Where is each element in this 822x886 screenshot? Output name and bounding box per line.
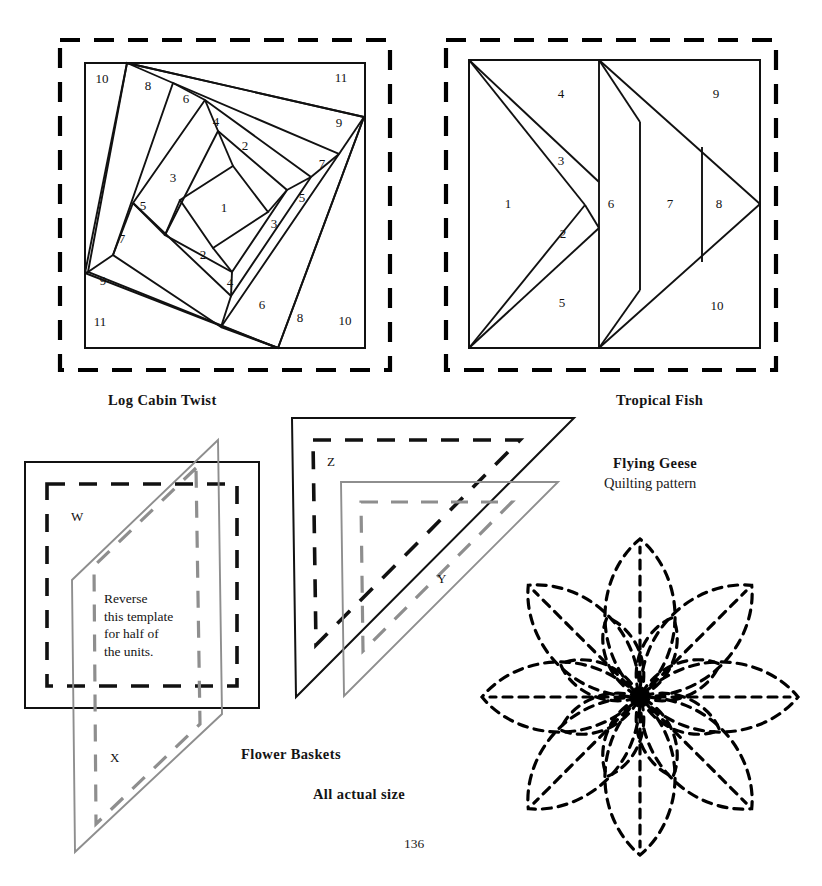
piece-number-19: 10 bbox=[339, 313, 352, 328]
template-y-outline bbox=[341, 482, 558, 696]
piece-number-3: 4 bbox=[213, 114, 220, 129]
flying-geese-quilting-motif bbox=[482, 539, 798, 855]
piece-number-0: 1 bbox=[221, 200, 228, 215]
template-label-w: W bbox=[71, 509, 84, 524]
piece-number-9: 10 bbox=[96, 71, 109, 86]
caption-tropical-fish: Tropical Fish bbox=[616, 392, 703, 409]
piece-number-14: 5 bbox=[299, 190, 306, 205]
page-number: 136 bbox=[404, 836, 424, 852]
template-label-y: Y bbox=[437, 571, 447, 586]
piece-number-4: 5 bbox=[140, 198, 147, 213]
piece-number-12: 3 bbox=[271, 216, 278, 231]
template-z-seamline bbox=[313, 440, 520, 645]
quilting-pattern-page: 1234567891011234567891011 bbox=[0, 0, 822, 886]
subcaption-flying-geese: Quilting pattern bbox=[604, 475, 696, 492]
piece-number-1: 2 bbox=[242, 138, 249, 153]
piece-number-5: 6 bbox=[608, 196, 615, 211]
tropical-fish-piece-numbers: 12345678910 bbox=[505, 86, 724, 313]
piece-number-3: 4 bbox=[558, 86, 565, 101]
piece-number-6: 7 bbox=[119, 231, 126, 246]
caption-all-actual-size: All actual size bbox=[313, 786, 405, 803]
caption-log-cabin-twist: Log Cabin Twist bbox=[108, 392, 217, 409]
flower-vein-7 bbox=[534, 591, 640, 697]
piece-number-0: 1 bbox=[505, 196, 512, 211]
log-cabin-twist-block: 1234567891011234567891011 bbox=[60, 40, 390, 370]
caption-flying-geese: Flying Geese bbox=[613, 455, 697, 472]
caption-flower-baskets: Flower Baskets bbox=[241, 746, 341, 763]
piece-number-7: 8 bbox=[145, 78, 152, 93]
piece-number-7: 8 bbox=[716, 196, 723, 211]
piece-number-13: 4 bbox=[227, 275, 234, 290]
piece-number-20: 11 bbox=[335, 70, 348, 85]
piece-number-10: 11 bbox=[94, 314, 107, 329]
piece-number-8: 9 bbox=[713, 86, 720, 101]
piece-number-8: 9 bbox=[100, 273, 107, 288]
piece-number-9: 10 bbox=[711, 298, 724, 313]
piece-number-18: 9 bbox=[336, 115, 343, 130]
flower-vein-5 bbox=[534, 697, 640, 803]
flower-vein-1 bbox=[640, 591, 746, 697]
template-label-z: Z bbox=[327, 454, 335, 469]
flower-vein-3 bbox=[640, 697, 746, 803]
piece-number-2: 3 bbox=[170, 170, 177, 185]
tropical-fish-block: 12345678910 bbox=[446, 40, 776, 370]
template-label-x: X bbox=[110, 750, 120, 765]
piece-number-6: 7 bbox=[667, 196, 674, 211]
page-artwork: 1234567891011234567891011 bbox=[0, 0, 822, 886]
piece-number-16: 7 bbox=[319, 156, 326, 171]
piece-number-1: 2 bbox=[560, 226, 567, 241]
template-w-outline bbox=[25, 462, 259, 708]
piece-number-5: 6 bbox=[183, 91, 190, 106]
piece-number-4: 5 bbox=[559, 295, 566, 310]
piece-number-2: 3 bbox=[558, 153, 565, 168]
template-reverse-note: Reverse this template for half of the un… bbox=[104, 590, 173, 660]
piece-number-11: 2 bbox=[200, 247, 207, 262]
piece-number-15: 6 bbox=[259, 297, 266, 312]
piece-number-17: 8 bbox=[297, 310, 304, 325]
